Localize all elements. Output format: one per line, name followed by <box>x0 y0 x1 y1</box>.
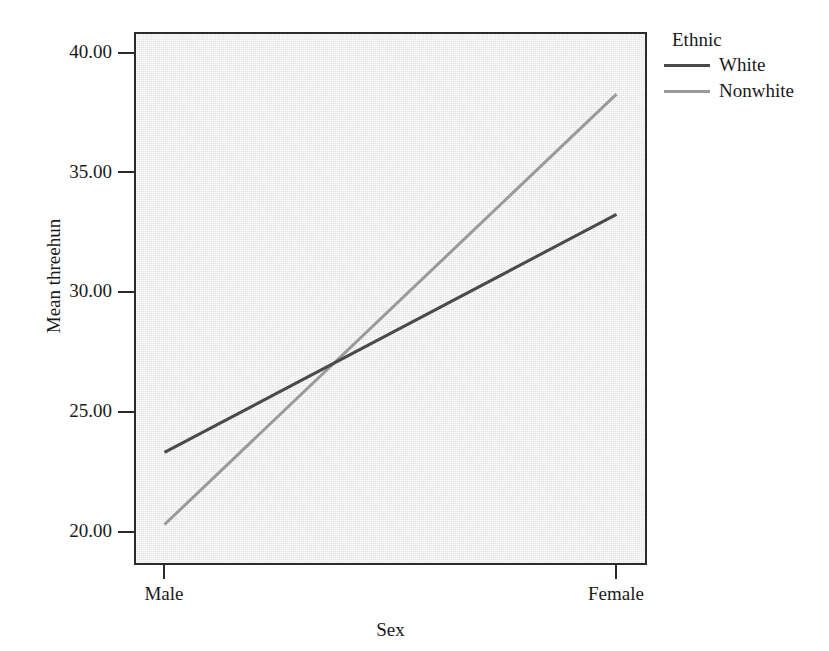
y-tick-label-25: 25.00 <box>69 401 112 420</box>
x-tick-label-female: Female <box>588 583 644 605</box>
x-tick-mark-female <box>615 565 617 579</box>
plot-area <box>134 32 647 565</box>
y-tick-mark-35 <box>118 171 134 173</box>
x-tick-mark-male <box>163 565 165 579</box>
legend-swatch-nonwhite-icon <box>664 90 710 93</box>
x-axis-title: Sex <box>134 619 647 641</box>
y-tick-mark-25 <box>118 411 134 413</box>
legend-item-nonwhite: Nonwhite <box>664 78 824 104</box>
legend-title: Ethnic <box>672 28 824 52</box>
profile-plot-figure: 40.00 35.00 30.00 25.00 20.00 Mean three… <box>0 0 829 651</box>
y-tick-label-30: 30.00 <box>69 281 112 300</box>
legend-swatch-white-icon <box>664 64 710 67</box>
legend-label-nonwhite: Nonwhite <box>719 80 794 102</box>
legend: Ethnic White Nonwhite <box>664 28 824 104</box>
legend-label-white: White <box>719 54 765 76</box>
y-tick-label-35: 35.00 <box>69 162 112 181</box>
y-tick-label-20: 20.00 <box>69 521 112 540</box>
y-tick-label-40: 40.00 <box>69 42 112 61</box>
y-axis-title: Mean threehun <box>43 156 65 396</box>
legend-item-white: White <box>664 52 824 78</box>
line-white <box>165 214 617 452</box>
y-tick-mark-20 <box>118 531 134 533</box>
series-lines <box>136 34 645 563</box>
y-tick-mark-40 <box>118 52 134 54</box>
x-tick-label-male: Male <box>144 583 183 605</box>
line-nonwhite <box>165 94 617 524</box>
y-tick-mark-30 <box>118 291 134 293</box>
